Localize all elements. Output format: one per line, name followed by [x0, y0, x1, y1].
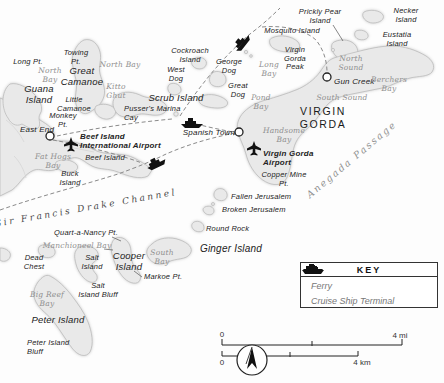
town-marker-spanish-town	[235, 128, 243, 136]
islet-seal-dog-2	[250, 55, 253, 58]
leader-lines	[104, 25, 343, 277]
islet-1	[212, 203, 215, 206]
route-east-end-marina-cay	[57, 119, 172, 136]
key-row-cruise: Cruise Ship Terminal	[301, 292, 437, 307]
islet-west-edge	[0, 248, 10, 261]
island-peter	[34, 275, 92, 355]
island-broken-jerusalem	[203, 206, 214, 215]
island-eustatia	[355, 30, 368, 40]
island-virgin-gorda	[237, 46, 433, 185]
island-great-camanoe	[72, 40, 104, 114]
map-canvas	[0, 0, 444, 383]
island-cooper	[111, 237, 140, 283]
island-dead-chest	[38, 245, 55, 258]
key-label-ferry: Ferry	[311, 281, 332, 291]
islet-saba-rock	[331, 48, 334, 51]
map-key: KEY Ferry Cruise Ship Terminal	[300, 262, 438, 308]
island-salt	[75, 246, 98, 283]
island-fallen-jerusalem	[214, 189, 227, 201]
cruise-ship-icon-marina-cay	[181, 118, 203, 128]
island-mosquito	[270, 36, 300, 52]
town-marker-gun-creek	[323, 73, 331, 81]
island-little-camanoe	[95, 104, 116, 119]
islet-marina-cay	[174, 112, 178, 116]
island-round-rock	[192, 221, 204, 231]
island-necker	[363, 10, 384, 23]
compass-icon	[237, 345, 267, 375]
bvi-map: Prickly Pear Island Necker Island Eustat…	[0, 0, 444, 383]
island-cockroach	[192, 57, 207, 68]
island-west-dog	[168, 83, 181, 94]
key-label-cruise: Cruise Ship Terminal	[311, 296, 394, 306]
key-row-ferry: Ferry	[301, 277, 437, 292]
island-buck	[55, 160, 77, 172]
cruise-ship-icon	[301, 263, 325, 275]
island-george-dog	[210, 71, 227, 86]
island-ginger	[147, 238, 191, 264]
island-great-dog	[199, 95, 228, 108]
island-scrub	[113, 92, 167, 117]
islet-seal-dog-1	[244, 50, 247, 53]
town-marker-east-end	[46, 132, 54, 140]
